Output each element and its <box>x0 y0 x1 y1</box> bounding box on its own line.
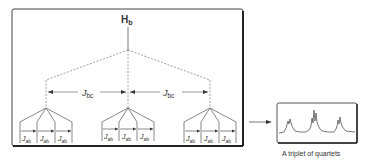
jab-label: Jab <box>221 135 231 144</box>
jab-label: Jab <box>103 133 113 142</box>
spectrum-caption: A triplet of quartets <box>282 150 341 158</box>
jab-label: Jab <box>139 133 149 142</box>
jab-label: Jab <box>57 135 67 144</box>
spectrum-trace <box>279 110 355 133</box>
splitting-tree-diagram: Hb Jbc Jbc <box>0 0 372 165</box>
jab-label: Jab <box>185 135 195 144</box>
tree-frame <box>12 9 243 146</box>
jab-label: Jab <box>203 135 213 144</box>
bc-splitting-dashes <box>46 50 210 108</box>
root-label: Hb <box>121 14 133 26</box>
jab-label: Jab <box>39 135 49 144</box>
jab-label: Jab <box>121 133 131 142</box>
jab-label: Jab <box>21 135 31 144</box>
